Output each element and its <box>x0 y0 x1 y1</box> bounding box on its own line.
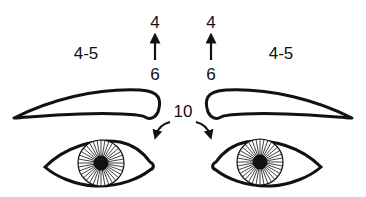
right-eyebrow <box>206 90 352 119</box>
label-right-bottom: 6 <box>206 66 215 83</box>
eyebrow-injection-diagram <box>0 0 366 197</box>
label-left-lateral: 4-5 <box>74 45 99 62</box>
label-glabella: 10 <box>174 103 193 120</box>
curved-arrow-right <box>196 122 210 135</box>
label-left-bottom: 6 <box>150 66 159 83</box>
label-right-top: 4 <box>206 14 215 31</box>
curved-arrow-left <box>156 122 170 135</box>
label-left-top: 4 <box>150 14 159 31</box>
label-right-lateral: 4-5 <box>269 45 294 62</box>
right-iris <box>237 139 283 185</box>
left-iris <box>78 140 124 186</box>
left-eyebrow <box>14 90 160 119</box>
